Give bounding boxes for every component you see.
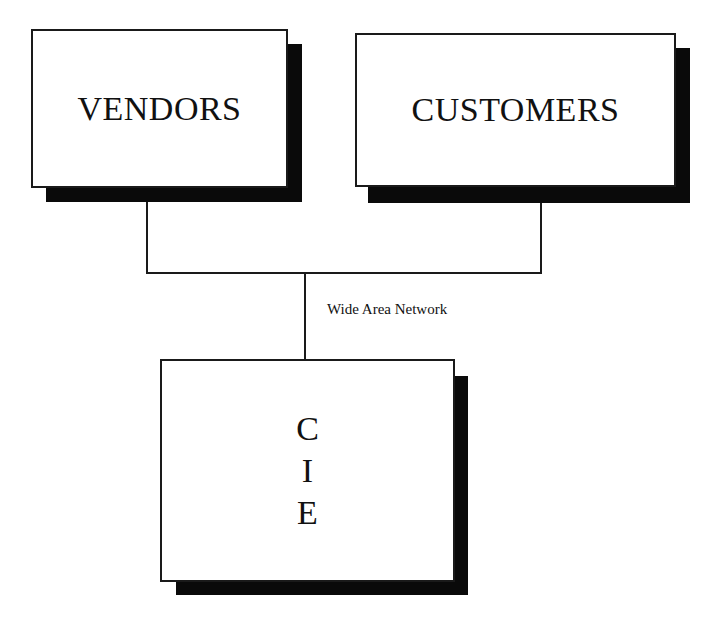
cie-letter-i: I xyxy=(302,450,313,492)
network-bus-line xyxy=(146,272,542,274)
cie-connector xyxy=(304,273,306,360)
vendors-connector xyxy=(146,202,148,274)
wide-area-network-label: Wide Area Network xyxy=(327,301,447,318)
vendors-label: VENDORS xyxy=(77,90,241,128)
customers-box: CUSTOMERS xyxy=(355,33,676,187)
customers-connector xyxy=(540,203,542,274)
vendors-box: VENDORS xyxy=(31,29,288,188)
cie-letter-c: C xyxy=(296,408,319,450)
cie-label: C I E xyxy=(296,408,319,534)
cie-letter-e: E xyxy=(297,492,318,534)
customers-label: CUSTOMERS xyxy=(412,91,620,129)
cie-box: C I E xyxy=(160,359,455,582)
